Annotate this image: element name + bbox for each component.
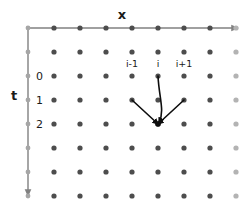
grid-node: [155, 25, 160, 30]
grid-node: [207, 193, 212, 198]
grid-node: [103, 193, 108, 198]
t-axis-tick: [26, 146, 31, 151]
t-axis-label: t: [11, 88, 17, 103]
grid-node: [207, 25, 212, 30]
grid-node: [103, 169, 108, 174]
grid-node: [51, 49, 56, 54]
grid-node: [129, 169, 134, 174]
figure-canvas: x t 012 i-1ii+1: [0, 0, 251, 214]
grid-node: [51, 193, 56, 198]
grid-node: [233, 145, 238, 150]
t-axis-tick-label: 2: [36, 118, 43, 131]
grid-node: [51, 25, 56, 30]
x-axis-label: x: [118, 7, 127, 22]
t-axis-tick-labels: 012: [36, 70, 43, 131]
grid-node: [129, 193, 134, 198]
arrow-from-left-neighbor: [132, 100, 158, 124]
grid-node: [77, 73, 82, 78]
grid-node: [233, 49, 238, 54]
t-axis-tick: [26, 194, 31, 199]
grid-node: [77, 121, 82, 126]
grid-node: [155, 193, 160, 198]
grid-node: [233, 193, 238, 198]
grid-node: [181, 121, 186, 126]
grid-node: [103, 49, 108, 54]
grid-node: [207, 73, 212, 78]
stencil-target-node: [155, 121, 161, 127]
grid-node: [233, 97, 238, 102]
grid-node: [181, 169, 186, 174]
grid-node: [207, 121, 212, 126]
grid-node: [51, 169, 56, 174]
grid-node: [103, 25, 108, 30]
stencil-diagram: x t 012 i-1ii+1: [0, 0, 251, 214]
grid-node: [181, 25, 186, 30]
grid-node: [155, 169, 160, 174]
grid-node: [155, 145, 160, 150]
grid-node: [103, 145, 108, 150]
grid-node: [51, 73, 56, 78]
grid-node: [207, 49, 212, 54]
grid-node: [181, 193, 186, 198]
grid-node: [233, 121, 238, 126]
grid-node: [51, 121, 56, 126]
grid-node: [155, 49, 160, 54]
t-axis-tick: [26, 170, 31, 175]
node-label: i-1: [126, 58, 138, 69]
grid-node: [233, 25, 238, 30]
grid-node: [103, 97, 108, 102]
grid-node: [207, 169, 212, 174]
grid-node: [77, 169, 82, 174]
grid-node: [129, 49, 134, 54]
node-labels: i-1ii+1: [126, 58, 192, 69]
t-axis-tick: [26, 50, 31, 55]
t-axis-tick: [26, 74, 31, 79]
grid-node: [51, 97, 56, 102]
t-axis-tick: [26, 122, 31, 127]
grid-node: [207, 97, 212, 102]
grid-node: [129, 145, 134, 150]
grid-node: [129, 73, 134, 78]
grid-node: [103, 121, 108, 126]
t-axis-tick: [26, 98, 31, 103]
grid-node: [129, 25, 134, 30]
grid-node: [181, 49, 186, 54]
grid-node: [233, 73, 238, 78]
grid-node: [233, 169, 238, 174]
node-label: i: [157, 58, 160, 69]
grid-node: [77, 97, 82, 102]
t-axis-tick: [26, 26, 31, 31]
grid-node: [77, 193, 82, 198]
node-label: i+1: [176, 58, 193, 69]
grid-node: [51, 145, 56, 150]
grid-node: [77, 25, 82, 30]
grid-node: [77, 145, 82, 150]
grid-node: [181, 73, 186, 78]
t-axis-tick-label: 1: [36, 94, 43, 107]
grid-node: [207, 145, 212, 150]
grid-node: [103, 73, 108, 78]
grid-node: [129, 121, 134, 126]
grid-node: [77, 49, 82, 54]
grid-node: [181, 145, 186, 150]
t-axis-tick-label: 0: [36, 70, 43, 83]
